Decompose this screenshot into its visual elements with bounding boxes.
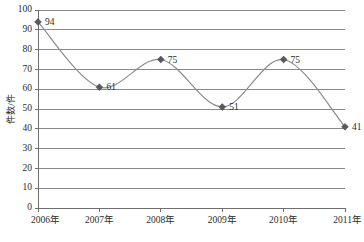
- y-tick-label: 50: [23, 103, 33, 113]
- y-tick-label: 40: [23, 123, 33, 133]
- data-value-label: 75: [168, 55, 178, 65]
- data-value-label: 41: [352, 122, 362, 132]
- x-tick-label: 2011年: [333, 214, 362, 225]
- y-axis-ticks: 0102030405060708090100: [18, 4, 38, 212]
- x-tick-label: 2007年: [85, 214, 114, 225]
- data-value-label: 61: [106, 82, 116, 92]
- line-chart: 0102030405060708090100 件数/件 946175517541…: [0, 0, 364, 242]
- x-axis-labels: 2006年2007年2008年2009年2010年2011年: [31, 214, 362, 225]
- chart-container: 0102030405060708090100 件数/件 946175517541…: [0, 0, 364, 242]
- y-tick-label: 90: [23, 24, 33, 34]
- y-tick-label: 30: [23, 143, 33, 153]
- y-axis-title: 件数/件: [5, 94, 16, 124]
- y-tick-label: 100: [18, 4, 33, 14]
- data-value-label: 51: [229, 102, 239, 112]
- x-tick-label: 2010年: [269, 214, 298, 225]
- y-tick-label: 20: [23, 163, 33, 173]
- y-tick-label: 80: [23, 44, 33, 54]
- data-value-label: 94: [45, 17, 55, 27]
- x-tick-label: 2008年: [146, 214, 175, 225]
- x-axis-ticks: [38, 208, 345, 212]
- y-tick-label: 10: [23, 182, 33, 192]
- data-value-label: 75: [291, 55, 301, 65]
- y-tick-label: 60: [23, 83, 33, 93]
- y-tick-label: 0: [27, 202, 32, 212]
- y-tick-label: 70: [23, 64, 33, 74]
- x-tick-label: 2009年: [208, 214, 237, 225]
- x-tick-label: 2006年: [31, 214, 60, 225]
